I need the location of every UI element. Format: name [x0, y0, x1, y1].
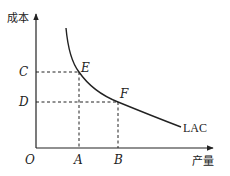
lac-curve — [66, 28, 181, 127]
lac-diagram: 成本 产量 O C D A B E F LAC — [0, 0, 230, 176]
tick-label-c: C — [19, 65, 28, 79]
x-axis-label: 产量 — [192, 154, 214, 168]
point-label-e: E — [80, 61, 90, 75]
point-label-f: F — [119, 87, 129, 101]
y-axis-label: 成本 — [7, 11, 29, 25]
curve-label-lac: LAC — [183, 121, 207, 135]
tick-label-b: B — [113, 153, 123, 167]
tick-label-d: D — [18, 95, 29, 109]
tick-label-a: A — [73, 153, 83, 167]
origin-label: O — [25, 153, 35, 167]
